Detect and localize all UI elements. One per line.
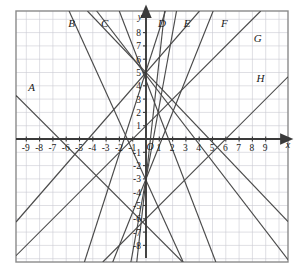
y-tick-label: 2: [136, 108, 141, 118]
x-tick-label: 8: [250, 143, 255, 153]
line-label-C: C: [101, 17, 109, 29]
y-tick-label: -5: [133, 201, 141, 211]
line-label-H: H: [255, 72, 265, 84]
y-tick-label: -2: [133, 161, 141, 171]
x-tick-label: 1: [156, 143, 161, 153]
x-tick-label: -5: [75, 143, 83, 153]
x-tick-label: 7: [236, 143, 241, 153]
y-tick-label: 4: [136, 81, 141, 91]
line-label-B: B: [68, 17, 75, 29]
x-tick-label: -7: [48, 143, 56, 153]
x-tick-label: 4: [196, 143, 201, 153]
coordinate-plane-figure: -9-8-7-6-5-4-3-2-112345678987654321-1-2-…: [0, 0, 300, 276]
y-tick-label: -6: [133, 214, 141, 224]
y-tick-label: 1: [136, 121, 141, 131]
origin-label: O: [146, 141, 153, 152]
x-tick-label: 5: [210, 143, 215, 153]
line-label-A: A: [27, 81, 35, 93]
x-axis-label: x: [285, 139, 291, 150]
x-tick-label: 3: [183, 143, 188, 153]
line-label-E: E: [183, 17, 191, 29]
line-label-G: G: [254, 32, 262, 44]
y-tick-label: 3: [136, 95, 141, 105]
y-tick-label: -8: [133, 241, 141, 251]
y-tick-label: 5: [136, 68, 141, 78]
y-tick-label: -1: [133, 148, 141, 158]
y-axis-label: y: [137, 11, 143, 22]
y-tick-label: 6: [136, 55, 141, 65]
coordinate-grid-svg: -9-8-7-6-5-4-3-2-112345678987654321-1-2-…: [0, 0, 300, 276]
y-tick-label: 8: [136, 28, 141, 38]
y-tick-label: -4: [133, 188, 141, 198]
x-tick-label: -6: [62, 143, 70, 153]
x-tick-label: 2: [170, 143, 175, 153]
x-tick-label: 6: [223, 143, 228, 153]
x-tick-label: -3: [102, 143, 110, 153]
y-tick-label: 7: [136, 41, 141, 51]
x-tick-label: -9: [22, 143, 30, 153]
y-tick-label: -3: [133, 174, 141, 184]
line-label-D: D: [157, 17, 166, 29]
x-tick-label: -2: [115, 143, 123, 153]
x-tick-label: 9: [263, 143, 268, 153]
line-label-F: F: [220, 17, 228, 29]
x-tick-label: -4: [88, 143, 96, 153]
y-tick-label: -7: [133, 228, 141, 238]
x-tick-label: -8: [35, 143, 43, 153]
